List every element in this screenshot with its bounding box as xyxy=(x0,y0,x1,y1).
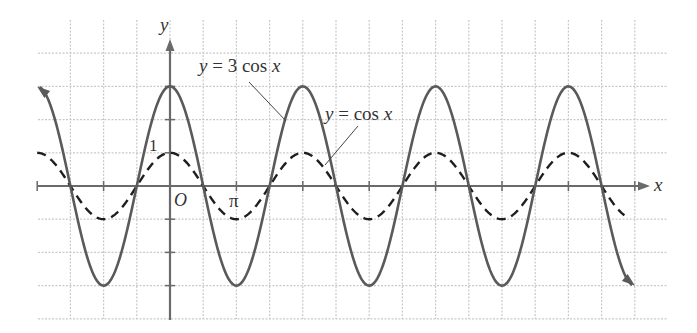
x-axis-arrow-icon xyxy=(638,182,650,191)
y-axis-label: y xyxy=(158,14,169,35)
one-tick-label: 1 xyxy=(149,136,158,155)
y-axis-arrow-icon xyxy=(166,39,175,51)
cos-x-label: y = cos x xyxy=(323,103,393,124)
cosine-graph: y x O π 1 y = 3 cos x y = cos x xyxy=(0,0,697,333)
three-cos-x-label: y = 3 cos x xyxy=(197,55,281,76)
cos-label-leader xyxy=(325,126,358,165)
curve-arrow-left-icon xyxy=(37,86,50,98)
axes xyxy=(37,39,650,320)
curve-arrow-right-icon xyxy=(622,274,635,286)
three-cos-label-leader xyxy=(249,82,286,121)
x-axis-label: x xyxy=(653,174,663,195)
grid xyxy=(38,20,668,319)
origin-label: O xyxy=(174,190,187,210)
pi-tick-label: π xyxy=(229,190,239,211)
